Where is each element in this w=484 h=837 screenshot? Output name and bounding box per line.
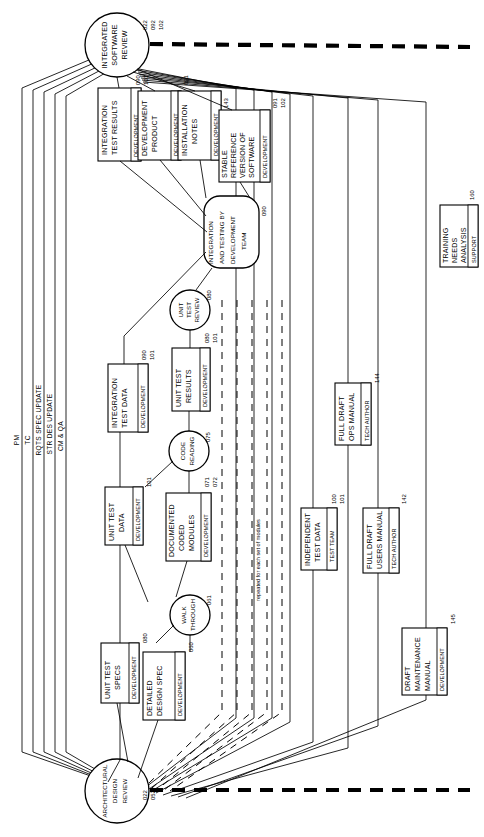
box-unit-test-data[interactable]: UNIT TEST DATA DEVELOPMENT [105, 487, 143, 545]
box-label-line-3: VERSION OF [239, 132, 247, 178]
box-role: DEVELOPMENT [131, 656, 137, 699]
box-label-line-3: MANUAL [424, 660, 432, 691]
tag: 101 [149, 350, 155, 360]
node-label-line-3: REVIEW [121, 30, 129, 59]
tags-full-draft-ops-manual: 144 [374, 372, 380, 383]
node-label-line-3: REVIEW [121, 778, 128, 803]
tag: 080 [142, 632, 148, 643]
box-label-line-2: OPS MANUAL [348, 392, 356, 441]
box-label-line-2: USERS MANUAL [376, 511, 384, 569]
box-label-line-1: INDEPENDENT [304, 512, 312, 566]
box-label-line-2: NOTES [191, 118, 199, 144]
box-installation-notes[interactable]: INSTALLATION NOTES DEVELOPMENT [178, 91, 221, 160]
tag: 160 [469, 189, 475, 200]
node-label-line-2: DESIGN [111, 779, 118, 803]
box-documented-coded-modules[interactable]: DOCUMENTED CODED MODULES DEVELOPMENT [166, 493, 211, 561]
box-unit-test-results[interactable]: UNIT TEST RESULTS DEVELOPMENT [172, 348, 210, 411]
tags-unit-test-data: 101 [146, 477, 152, 487]
tag: 075 [205, 431, 211, 442]
box-training-needs-analysis[interactable]: TRAINING NEEDS ANALYSIS SUPPORT [440, 205, 478, 267]
tag: 091 [272, 98, 278, 108]
tag: 090 [261, 205, 267, 216]
node-walk-through[interactable]: WALK THROUGH [170, 595, 210, 635]
tag: 100 [331, 493, 337, 504]
node-integration-and-testing-by-development-team[interactable]: INTEGRATION AND TESTING BY DEVELOPMENT T… [204, 196, 259, 268]
box-label-line-1: STABLE [221, 150, 229, 178]
box-independent-test-data[interactable]: INDEPENDENT TEST DATA TEST TEAM [301, 508, 337, 570]
box-role: SUPPORT [471, 235, 477, 263]
edge-detailed-design-spec-to-adr [138, 720, 158, 778]
tag: 102 [158, 20, 164, 30]
tags-stable-reference-version-of-software: 091 102 [272, 98, 286, 108]
edge-integration-test-data-down [108, 432, 120, 782]
box-label-line-2: SPECS [114, 665, 122, 690]
lane-labels: PM TC RQTS SPEC UPDATE STR DES UPDATE CM… [13, 384, 65, 455]
box-label-line-1: DOCUMENTED [168, 504, 176, 557]
tag: 060 [188, 641, 194, 652]
tags-walk-through: 061 [206, 595, 212, 605]
lane-label-cm-qa: CM & QA [57, 421, 65, 451]
box-full-draft-ops-manual[interactable]: FULL DRAFT OPS MANUAL TECH AUTHOR [335, 383, 371, 445]
tag: 072 [212, 477, 218, 487]
box-role: DEVELOPMENT [140, 385, 146, 428]
box-label-line-1: DEVELOPMENT [141, 100, 149, 156]
lane-label-str-des-update: STR DES UPDATE [46, 393, 53, 454]
box-label-line-2: REFERENCE [230, 132, 238, 178]
box-label-line-1: FULL DRAFT [338, 396, 346, 441]
box-unit-test-specs[interactable]: UNIT TEST SPECS DEVELOPMENT [101, 643, 139, 703]
node-code-reading[interactable]: CODE READING [169, 431, 209, 471]
box-role: TECH AUTHOR [391, 528, 397, 569]
node-architectural-design-review[interactable]: ARCHITECTURAL DESIGN REVIEW [85, 759, 149, 823]
tags-unit-test-specs: 080 [142, 632, 148, 643]
node-unit-test-review[interactable]: UNIT TEST REVIEW [170, 290, 210, 330]
box-role: DEVELOPMENT [439, 648, 445, 691]
tags-independent-test-data: 100 101 [331, 493, 345, 504]
node-label-line-1: INTEGRATION [207, 221, 214, 264]
tags-unit-test-review: 080 [206, 289, 212, 300]
node-label-line-1: CODE [179, 442, 186, 460]
box-label-line-2: TEST DATA [314, 522, 322, 562]
box-role: DEVELOPMENT [203, 514, 209, 557]
tag: 142 [401, 494, 407, 504]
box-role: TECH AUTHOR [364, 400, 370, 441]
tag: 090 [141, 349, 147, 360]
box-label-line-1: TRAINING [442, 228, 450, 264]
node-label-line-2: TEST [185, 302, 192, 318]
box-detailed-design-spec[interactable]: DETAILED DESIGN SPEC DEVELOPMENT [143, 652, 185, 720]
tag: 144 [374, 372, 380, 383]
box-label-line-2: CODED [178, 524, 186, 551]
edge-documented-modules-to-walk-through [176, 561, 187, 597]
tag: 101 [212, 333, 218, 343]
node-label-line-2: SOFTWARE [111, 24, 119, 66]
box-label-line-2: DESIGN SPEC [156, 665, 164, 716]
tags-development-product: 091 [183, 75, 189, 85]
node-label-line-2: THROUGH [189, 599, 196, 631]
box-draft-maintenance-manual[interactable]: DRAFT MAINTENANCE MANUAL DEVELOPMENT [402, 628, 447, 695]
box-stable-reference-version-of-software[interactable]: STABLE REFERENCE VERSION OF SOFTWARE DEV… [219, 110, 270, 182]
edge-unit-test-data-to-walk-through [125, 545, 148, 602]
box-label-line-1: INTEGRATION [111, 378, 119, 428]
node-integrated-software-review[interactable]: INTEGRATED SOFTWARE REVIEW [85, 13, 149, 77]
tag: 080 [204, 332, 210, 343]
box-integration-test-data[interactable]: INTEGRATION TEST DATA DEVELOPMENT [108, 364, 148, 432]
node-label-line-1: INTEGRATED [101, 21, 109, 68]
box-role: DEVELOPMENT [262, 135, 268, 178]
box-label-line-2: TEST RESULTS [111, 100, 119, 155]
box-label-line-1: UNIT TEST [175, 368, 183, 407]
box-label-line-1: UNIT TEST [104, 660, 112, 699]
box-integration-test-results[interactable]: INTEGRATION TEST RESULTS DEVELOPMENT [98, 88, 141, 161]
tags-full-draft-users-manual: 142 [401, 494, 407, 504]
box-role: TEST TEAM [329, 530, 335, 562]
box-development-product[interactable]: DEVELOPMENT PRODUCT DEVELOPMENT [138, 91, 181, 160]
box-label-line-1: INTEGRATION [101, 105, 109, 155]
edge-unit-test-review-to-integration [196, 268, 212, 290]
edge-walk-through-to-unit-test-specs [156, 625, 174, 643]
node-label-line-1: WALK [180, 605, 187, 623]
tags-code-reading: 075 [205, 431, 211, 442]
box-full-draft-users-manual[interactable]: FULL DRAFT USERS MANUAL TECH AUTHOR [363, 508, 399, 573]
lane-label-tc: TC [24, 435, 31, 444]
box-role: DEVELOPMENT [177, 673, 183, 716]
box-label-line-2: RESULTS [185, 369, 193, 403]
tags-training-needs-analysis: 160 [469, 189, 475, 200]
tag: 080 [206, 289, 212, 300]
